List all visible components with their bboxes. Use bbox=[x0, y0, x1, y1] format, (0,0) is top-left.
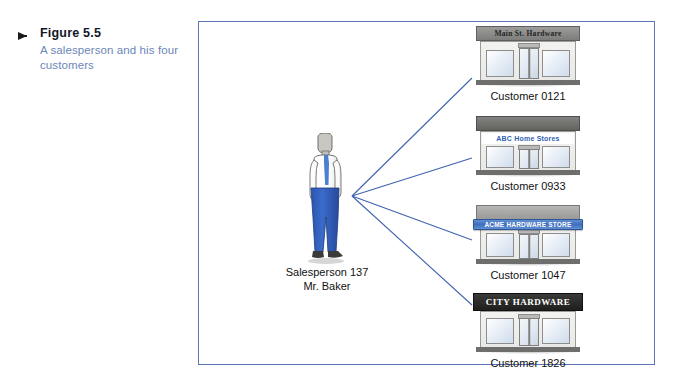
store-sign: CITY HARDWARE bbox=[473, 293, 583, 311]
store-window-right bbox=[542, 233, 570, 257]
customer-card[interactable]: ABC Home Stores Customer 0933 bbox=[472, 116, 584, 192]
figure-pants bbox=[311, 188, 339, 252]
store-sidewalk bbox=[476, 347, 580, 352]
store-illustration: ACME HARDWARE STORE bbox=[472, 205, 584, 267]
store-sign-text: ABC Home Stores bbox=[496, 135, 559, 142]
figure-shadow bbox=[308, 258, 344, 264]
store-door bbox=[519, 149, 539, 169]
salesperson-name-line1: Salesperson 137 bbox=[262, 266, 392, 280]
customer-label: Customer 1826 bbox=[472, 357, 584, 369]
figure-number: Figure 5.5 bbox=[40, 26, 101, 40]
store-illustration: ABC Home Stores bbox=[472, 116, 584, 178]
store-sign: ACME HARDWARE STORE bbox=[473, 219, 583, 230]
figure-page: Figure 5.5 A salesperson and his four cu… bbox=[0, 0, 689, 392]
customer-label: Customer 0933 bbox=[472, 180, 584, 192]
store-awning bbox=[476, 116, 580, 131]
store-sign-text: CITY HARDWARE bbox=[474, 294, 582, 310]
store-sign: ABC Home Stores bbox=[482, 133, 574, 144]
figure-left-shoe bbox=[312, 251, 324, 258]
store-sidewalk bbox=[476, 259, 580, 264]
store-awning bbox=[476, 205, 580, 220]
store-illustration: Main St. Hardware bbox=[472, 26, 584, 88]
store-window-right bbox=[542, 318, 570, 344]
store-window-right bbox=[542, 146, 570, 168]
customer-card[interactable]: ACME HARDWARE STORE Customer 1047 bbox=[472, 205, 584, 281]
customer-label: Customer 1047 bbox=[472, 269, 584, 281]
store-window-left bbox=[486, 146, 514, 168]
store-facade bbox=[480, 41, 576, 83]
figure-head bbox=[318, 133, 332, 153]
store-sign-text: Main St. Hardware bbox=[477, 27, 579, 40]
customer-card[interactable]: CITY HARDWARE Customer 1826 bbox=[472, 293, 584, 369]
store-sign: Main St. Hardware bbox=[476, 26, 580, 41]
store-door bbox=[519, 48, 539, 79]
store-door bbox=[519, 234, 539, 259]
store-illustration: CITY HARDWARE bbox=[472, 293, 584, 355]
salesperson-name-line2: Mr. Baker bbox=[262, 280, 392, 294]
store-facade: ABC Home Stores bbox=[480, 131, 576, 173]
store-window-left bbox=[486, 318, 514, 344]
store-sign-text: ACME HARDWARE STORE bbox=[484, 221, 571, 228]
diagram-frame bbox=[198, 21, 655, 365]
store-window-right bbox=[542, 50, 570, 77]
customer-card[interactable]: Main St. Hardware Customer 0121 bbox=[472, 26, 584, 102]
store-window-left bbox=[486, 233, 514, 257]
salesperson-label: Salesperson 137 Mr. Baker bbox=[262, 266, 392, 293]
store-sidewalk bbox=[476, 80, 580, 85]
store-door bbox=[519, 318, 539, 346]
arrow-right-icon bbox=[18, 32, 27, 40]
figure-right-shoe bbox=[328, 251, 343, 258]
figure-description: A salesperson and his four customers bbox=[40, 43, 190, 73]
store-window-left bbox=[486, 50, 514, 77]
customer-label: Customer 0121 bbox=[472, 90, 584, 102]
store-sidewalk bbox=[476, 170, 580, 175]
store-facade bbox=[480, 311, 576, 350]
salesperson-figure bbox=[297, 133, 353, 265]
